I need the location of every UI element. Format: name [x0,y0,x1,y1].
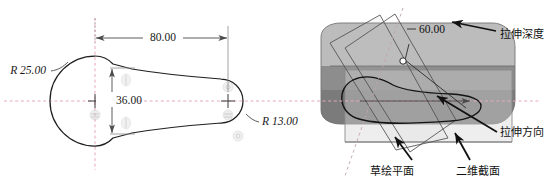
annotation-extrusion-depth-label: 拉伸深度 [500,27,544,41]
sketch-view: 80.00 36.00 R 25.00 R 13.00 [4,18,298,170]
radius-large-label: R 25.00 [9,64,46,76]
vertical-constraint-icon-1 [121,74,130,86]
illustration-canvas: 80.00 36.00 R 25.00 R 13.00 [0,0,545,183]
dimension-length-80: 80.00 [95,18,228,92]
tangent-constraint-icon-2 [223,110,233,120]
right-center-mark [221,94,235,108]
extrusion-view: 60.00 拉伸深度 拉伸方向 草绘平面 二维截面 [289,8,544,178]
dimension-width-36: 36.00 [96,68,142,134]
annotation-extrusion-direction-label: 拉伸方向 [500,125,544,139]
tangent-constraint-icon-1 [90,110,100,120]
vertical-constraint-icon-2 [121,117,130,129]
radius-small-callout: R 13.00 [246,114,298,127]
depth-drag-handle[interactable] [400,58,406,64]
constraint-symbols [90,74,243,141]
extrusion-depth-value: 60.00 [419,23,445,35]
point-constraint-icon-2 [233,131,243,141]
annotation-sketch-plane-label: 草绘平面 [370,164,414,178]
annotation-2d-section-label: 二维截面 [456,164,500,178]
dimension-length-label: 80.00 [150,31,176,43]
technical-illustration: 80.00 36.00 R 25.00 R 13.00 [0,0,545,183]
radius-small-label: R 13.00 [261,115,298,127]
dimension-width-label: 36.00 [116,94,142,106]
